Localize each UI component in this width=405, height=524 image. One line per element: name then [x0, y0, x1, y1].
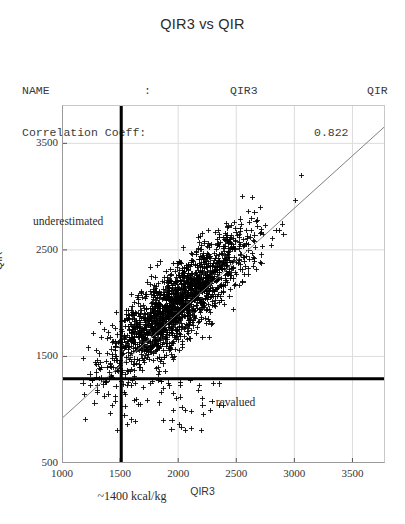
- y-tick-label: 1500: [36, 349, 58, 361]
- stats-name-label: NAME: [22, 84, 50, 98]
- x-tick-label: 3500: [329, 467, 375, 479]
- stats-variable-x: QIR3: [230, 84, 258, 98]
- x-tick-label: 3000: [271, 467, 317, 479]
- region-label-revalued: revalued: [216, 396, 256, 408]
- stats-variable-y: QIR: [367, 84, 388, 98]
- stats-colon: :: [144, 84, 151, 98]
- y-axis-title: QIR: [0, 251, 4, 270]
- threshold-note: ~1400 kcal/kg: [52, 489, 212, 504]
- stats-header-row-1: NAME : QIR3 QIR: [22, 84, 63, 98]
- x-tick-label: 1500: [97, 467, 143, 479]
- region-label-underestimated: underestimated: [33, 215, 103, 227]
- chart-page: QIR3 vs QIR NAME : QIR3 QIR Correlation …: [0, 0, 405, 524]
- y-tick-label: 3500: [36, 136, 58, 148]
- x-tick-label: 2000: [155, 467, 201, 479]
- x-axis-ticks: 100015002000250030003500: [0, 467, 405, 483]
- page-title: QIR3 vs QIR: [0, 16, 405, 32]
- y-axis-ticks: 500150025003500: [0, 105, 58, 463]
- x-tick-label: 2500: [213, 467, 259, 479]
- y-tick-label: 2500: [36, 243, 58, 255]
- plot-frame: [62, 105, 385, 463]
- x-tick-label: 1000: [39, 467, 85, 479]
- scatter-plot-area: [62, 105, 385, 463]
